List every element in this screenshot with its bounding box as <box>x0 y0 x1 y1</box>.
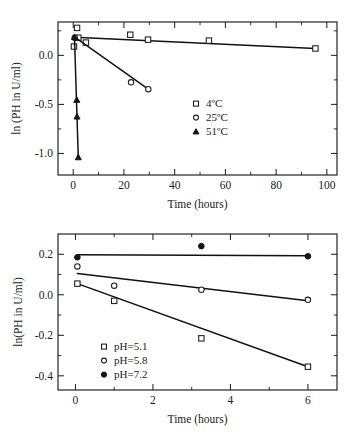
legend-label-2: pH=7.2 <box>114 368 147 380</box>
y-axis-label: ln (PH in U/ml) <box>10 62 23 135</box>
x-tick-label-2: 4 <box>228 394 234 406</box>
plot-frame <box>58 22 337 175</box>
plot-frame <box>58 234 337 390</box>
x-tick-label-0: 0 <box>70 179 76 191</box>
legend-label-0: 4ºC <box>206 97 222 109</box>
y-axis-label: ln(PH in U/ml) <box>12 277 25 347</box>
ph-stability-plot: 02460.20.0-0.2-0.4Time (hours)ln(PH in U… <box>0 215 364 437</box>
series-ph-7-2 <box>75 243 311 260</box>
legend-marker-1 <box>194 115 199 120</box>
x-tick-label-4: 80 <box>270 179 282 191</box>
data-point-ph-5-8-1 <box>111 283 116 288</box>
fit-line-2 <box>77 255 308 256</box>
legend-label-0: pH=5.1 <box>114 340 147 352</box>
ph-stability-chart-panel: 02460.20.0-0.2-0.4Time (hours)ln(PH in U… <box>0 215 364 437</box>
data-point-4-c-6 <box>206 38 211 43</box>
data-point-4-c-7 <box>313 46 318 51</box>
y-tick-label-0: 0.2 <box>39 248 54 260</box>
thermal-stability-plot: 0204060801000.0-0.5-1.0Time (hours)ln (P… <box>0 0 364 220</box>
data-point-4-c-1 <box>74 25 79 30</box>
data-point-ph-7-2-2 <box>305 253 311 259</box>
data-point-ph-5-8-0 <box>75 264 80 269</box>
y-tick-label-2: -0.2 <box>35 329 53 341</box>
data-point-ph-7-2-0 <box>75 254 81 260</box>
x-axis-label: Time (hours) <box>168 198 228 211</box>
x-tick-label-1: 2 <box>150 394 156 406</box>
data-point-4-c-5 <box>145 37 150 42</box>
x-tick-label-2: 40 <box>169 179 181 191</box>
legend-label-1: pH=5.8 <box>114 354 148 366</box>
y-tick-label-1: 0.0 <box>39 289 54 301</box>
fit-line-0 <box>74 37 315 48</box>
axis-tick-labels: 02460.20.0-0.2-0.4 <box>35 248 311 406</box>
series-51-c <box>71 34 81 160</box>
series-4-c <box>71 25 318 51</box>
series-ph-5-8 <box>75 264 311 303</box>
legend-marker-0 <box>194 101 199 106</box>
legend: 4ºC25ºC51ºC <box>193 97 228 137</box>
data-point-4-c-4 <box>128 32 133 37</box>
y-tick-label-1: -0.5 <box>35 98 53 110</box>
legend-marker-2 <box>101 372 106 377</box>
data-point-ph-5-1-1 <box>111 298 116 303</box>
axis-ticks <box>58 234 337 390</box>
data-point-ph-7-2-1 <box>199 243 205 249</box>
x-tick-label-3: 60 <box>220 179 232 191</box>
data-point-ph-5-8-2 <box>199 287 204 292</box>
legend-label-1: 25ºC <box>206 111 228 123</box>
x-tick-label-1: 20 <box>118 179 130 191</box>
series-ph-5-1 <box>75 281 311 369</box>
data-point-25-c-2 <box>146 86 151 91</box>
data-point-51-c-2 <box>74 114 80 120</box>
data-point-ph-5-8-3 <box>305 297 310 302</box>
legend: pH=5.1pH=5.8pH=7.2 <box>101 340 147 380</box>
data-point-25-c-1 <box>128 80 133 85</box>
x-tick-label-3: 6 <box>305 394 311 406</box>
x-tick-label-0: 0 <box>73 394 79 406</box>
legend-marker-2 <box>193 129 199 134</box>
data-point-ph-5-1-0 <box>75 281 80 286</box>
legend-marker-1 <box>102 358 107 363</box>
legend-marker-0 <box>102 344 107 349</box>
y-tick-label-3: -0.4 <box>35 370 53 382</box>
data-point-ph-5-1-2 <box>199 336 204 341</box>
y-tick-label-2: -1.0 <box>35 147 53 159</box>
x-axis-label: Time (hours) <box>168 413 228 426</box>
data-point-ph-5-1-3 <box>305 364 310 369</box>
data-point-51-c-3 <box>75 154 81 160</box>
axis-tick-labels: 0204060801000.0-0.5-1.0 <box>35 49 336 191</box>
x-tick-label-5: 100 <box>318 179 336 191</box>
axis-ticks <box>58 22 337 175</box>
data-point-51-c-1 <box>74 97 80 103</box>
legend-label-2: 51ºC <box>206 125 228 137</box>
thermal-stability-chart-panel: 0204060801000.0-0.5-1.0Time (hours)ln (P… <box>0 0 364 220</box>
series-25-c <box>72 35 151 92</box>
y-tick-label-0: 0.0 <box>39 49 54 61</box>
fit-line-1 <box>75 37 149 89</box>
